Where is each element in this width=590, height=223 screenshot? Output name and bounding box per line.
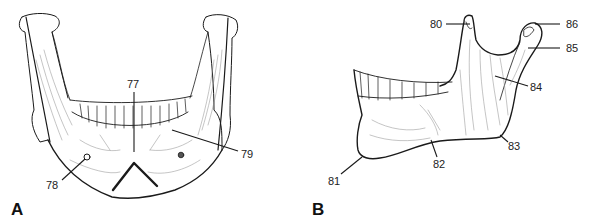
callout-84: 84: [530, 82, 542, 93]
callout-78: 78: [46, 180, 58, 191]
leader-lines-panel-b: [341, 24, 560, 174]
mandible-lateral-view: [354, 15, 542, 158]
callout-85: 85: [566, 43, 578, 54]
callout-79: 79: [241, 149, 253, 160]
callout-83: 83: [508, 141, 520, 152]
leader-lines-panel-a: [62, 92, 238, 180]
mandible-anterior-view: [19, 13, 237, 198]
callout-86: 86: [566, 19, 578, 30]
callout-82: 82: [433, 159, 445, 170]
callout-81: 81: [328, 176, 340, 187]
panel-label-a: A: [11, 201, 23, 218]
callout-80: 80: [430, 19, 442, 30]
mandible-illustration: [0, 0, 590, 223]
panel-label-b: B: [312, 201, 324, 218]
callout-77: 77: [127, 79, 139, 90]
